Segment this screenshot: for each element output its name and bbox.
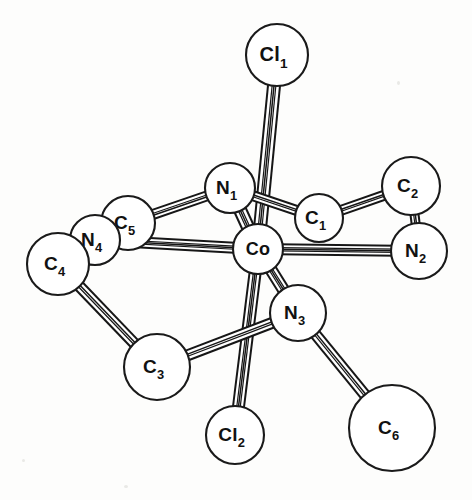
- molecular-structure-figure: Cl1N1C1C2N2CoC5N4C4C3N3Cl2C6: [0, 0, 472, 500]
- atom-cl2[interactable]: Cl2: [206, 406, 264, 464]
- bond-n3-c6: [308, 327, 372, 403]
- bond-co-n2: [277, 244, 397, 255]
- bond-c4-c3: [72, 279, 142, 351]
- atom-c1[interactable]: C1: [295, 194, 343, 242]
- atom-co[interactable]: Co: [233, 224, 283, 274]
- atom-c3[interactable]: C3: [124, 334, 190, 400]
- molecule-canvas: Cl1N1C1C2N2CoC5N4C4C3N3Cl2C6: [0, 0, 472, 500]
- atom-n1[interactable]: N1: [205, 163, 255, 213]
- bond-n1-c5: [146, 190, 213, 221]
- atom-label-co: Co: [246, 239, 270, 259]
- atom-c2[interactable]: C2: [382, 157, 440, 215]
- atom-n2[interactable]: N2: [391, 223, 447, 279]
- atom-n3[interactable]: N3: [270, 285, 326, 341]
- atom-cl1[interactable]: Cl1: [246, 24, 308, 86]
- bond-c3-n3: [180, 316, 279, 362]
- atom-c6[interactable]: C6: [349, 385, 435, 471]
- atom-c4[interactable]: C4: [27, 233, 89, 295]
